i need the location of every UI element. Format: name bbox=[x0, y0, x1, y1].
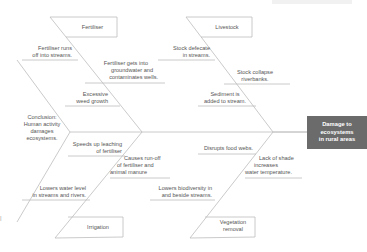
effect-line-3: in rural areas bbox=[319, 136, 355, 144]
cause-line: weed growth bbox=[66, 98, 108, 105]
cause-line: added to stream. bbox=[198, 98, 252, 105]
cause-sediment: Sediment is added to stream. bbox=[198, 91, 252, 105]
conclusion-line-2: Human activity bbox=[22, 121, 62, 128]
cause-biodiversity: Lowers biodiversity in and beside stream… bbox=[150, 185, 212, 199]
cause-line: groundwater and bbox=[86, 67, 158, 74]
cause-line: Lowers biodiversity in bbox=[150, 185, 212, 192]
cause-line: Fertiliser gets into bbox=[86, 60, 158, 67]
cause-water-level: Lowers water level in streams and rivers… bbox=[22, 185, 86, 199]
category-fertiliser: Fertiliser bbox=[70, 24, 115, 31]
cause-line: riverbanks. bbox=[230, 76, 280, 83]
category-irrigation: Irrigation bbox=[75, 224, 121, 231]
cause-line: off into streams. bbox=[22, 52, 72, 59]
cause-line: Excessive bbox=[66, 91, 108, 98]
effect-line-2: ecosystems bbox=[319, 129, 355, 137]
cause-line: in streams and rivers. bbox=[22, 192, 86, 199]
cause-line: increases bbox=[245, 162, 303, 169]
cause-line: of fertiliser bbox=[68, 148, 122, 155]
conclusion-line-1: Conclusion: bbox=[22, 114, 62, 121]
cause-line: Speeds up leaching bbox=[68, 141, 122, 148]
cause-food-webs: Disrupts food webs. bbox=[198, 145, 253, 152]
cause-line: Stock defecate bbox=[160, 45, 210, 52]
vegetation-line-2: removal bbox=[212, 226, 254, 233]
cause-stock-defecate: Stock defecate in streams. bbox=[160, 45, 210, 59]
cause-line: of fertiliser and bbox=[110, 162, 170, 169]
margin-mark: | bbox=[0, 215, 2, 221]
cause-line: contaminates wells. bbox=[86, 74, 158, 81]
cause-weed-growth: Excessive weed growth bbox=[66, 91, 108, 105]
cause-fertiliser-runoff: Fertiliser runs off into streams. bbox=[22, 45, 72, 59]
cause-line: Causes run-off bbox=[110, 155, 170, 162]
cause-fertiliser-groundwater: Fertiliser gets into groundwater and con… bbox=[86, 60, 158, 81]
cause-line: Fertiliser runs bbox=[22, 45, 72, 52]
effect-line-1: Damage to bbox=[319, 121, 355, 129]
cause-line: and beside streams. bbox=[150, 192, 212, 199]
conclusion-line-3: damages bbox=[22, 128, 62, 135]
cause-line: animal manure bbox=[110, 169, 170, 176]
cause-shade-temperature: Lack of shade increases water temperatur… bbox=[245, 155, 303, 176]
cause-leaching: Speeds up leaching of fertiliser bbox=[68, 141, 122, 155]
cause-line: Sediment is bbox=[198, 91, 252, 98]
cause-runoff-manure: Causes run-off of fertiliser and animal … bbox=[110, 155, 170, 176]
category-livestock: Livestock bbox=[204, 24, 250, 31]
cause-line: in streams. bbox=[160, 52, 210, 59]
effect-box: Damage to ecosystems in rural areas bbox=[307, 116, 367, 149]
cause-line: Lack of shade bbox=[245, 155, 303, 162]
cause-line: water temperature. bbox=[245, 169, 303, 176]
category-vegetation-removal: Vegetation removal bbox=[212, 219, 254, 233]
vegetation-line-1: Vegetation bbox=[212, 219, 254, 226]
conclusion-text: Conclusion: Human activity damages ecosy… bbox=[22, 114, 62, 142]
cause-line: Lowers water level bbox=[22, 185, 86, 192]
cause-line: Stock collapse bbox=[230, 69, 280, 76]
cause-stock-riverbanks: Stock collapse riverbanks. bbox=[230, 69, 280, 83]
conclusion-line-4: ecosystems. bbox=[22, 135, 62, 142]
